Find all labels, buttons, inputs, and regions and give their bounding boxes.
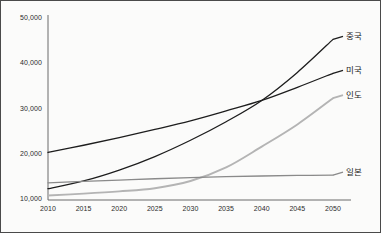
series-label-2: 인도: [346, 88, 362, 100]
x-tick-2030: 2030: [177, 205, 205, 212]
series-leader-2: [333, 95, 343, 98]
series-label-1: 미국: [346, 63, 362, 75]
y-tick-40000: 40,000: [20, 59, 42, 66]
y-tick-30000: 30,000: [20, 105, 42, 112]
series-label-3: 일본: [346, 165, 362, 177]
line-chart-canvas: [1, 1, 382, 234]
x-tick-2045: 2045: [283, 205, 311, 212]
y-tick-20000: 20,000: [20, 150, 42, 157]
x-tick-2050: 2050: [319, 205, 347, 212]
chart-series-lines: [48, 36, 343, 195]
series-leader-1: [333, 70, 343, 73]
series-leader-0: [333, 36, 343, 39]
series-label-0: 중국: [346, 29, 362, 41]
x-tick-2010: 2010: [34, 205, 62, 212]
x-tick-2015: 2015: [70, 205, 98, 212]
series-line-0: [48, 39, 333, 188]
y-tick-10000: 10,000: [20, 195, 42, 202]
chart-frame: 10,00020,00030,00040,00050,000 201020152…: [0, 0, 381, 233]
x-tick-2025: 2025: [141, 205, 169, 212]
chart-axes: [48, 15, 351, 200]
x-tick-2035: 2035: [212, 205, 240, 212]
series-leader-3: [333, 172, 343, 175]
y-tick-50000: 50,000: [20, 14, 42, 21]
x-tick-2020: 2020: [105, 205, 133, 212]
x-tick-2040: 2040: [248, 205, 276, 212]
